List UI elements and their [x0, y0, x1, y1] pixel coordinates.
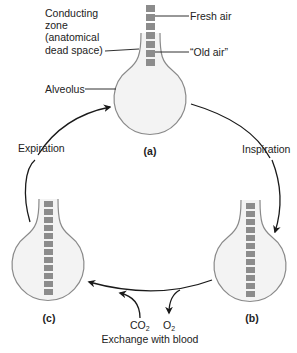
- alveolar-ventilation-diagram: Conducting zone (anatomical dead space) …: [0, 0, 297, 353]
- panel-label-c: (c): [43, 312, 56, 324]
- co2-label: CO2: [130, 319, 150, 332]
- alveolus-a: [114, 5, 186, 134]
- inspiration-arrow-bottom: [272, 160, 280, 232]
- expiration-label: Expiration: [18, 142, 65, 154]
- expiration-arrow: [25, 107, 110, 222]
- old-air-label: “Old air”: [190, 46, 228, 58]
- alveolus-b: [214, 200, 286, 301]
- fresh-air-label: Fresh air: [190, 10, 232, 22]
- co2-arrow: [120, 293, 140, 318]
- o2-arrow: [169, 290, 180, 313]
- conducting-zone-label: Conducting: [45, 7, 98, 19]
- o2-label: O2: [163, 319, 175, 332]
- conducting-zone-label: (anatomical: [45, 31, 99, 43]
- exchange-arrow: [89, 280, 212, 291]
- inspiration-label: Inspiration: [242, 143, 291, 155]
- panel-label-a: (a): [144, 145, 157, 157]
- conducting-zone-label: zone: [45, 19, 68, 31]
- alveolus-c: [12, 199, 84, 300]
- exchange-with-blood-label: Exchange with blood: [102, 333, 199, 345]
- alveolus-label: Alveolus: [45, 83, 85, 95]
- panel-label-b: (b): [245, 312, 258, 324]
- conducting-zone-label: dead space): [45, 44, 103, 56]
- air-blocks-a: [146, 5, 155, 66]
